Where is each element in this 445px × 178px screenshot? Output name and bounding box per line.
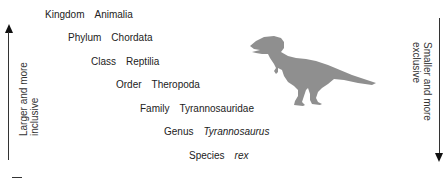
up-arrowhead-icon xyxy=(5,24,13,33)
right-axis-label: Smaller and more exclusive xyxy=(411,42,433,121)
rank-genus: GenusTyrannosaurus xyxy=(164,126,269,138)
rank-class: ClassReptilia xyxy=(91,56,159,68)
rank-order: OrderTheropoda xyxy=(116,79,200,91)
left-axis-line xyxy=(8,32,9,160)
rank-species: Speciesrex xyxy=(189,150,248,162)
bottom-left-mark xyxy=(12,177,22,178)
left-axis-label: Larger and more inclusive xyxy=(18,62,40,136)
rank-kingdom: KingdomAnimalia xyxy=(45,9,133,21)
down-arrowhead-icon xyxy=(435,153,443,162)
rank-family: FamilyTyrannosauridae xyxy=(140,103,254,115)
right-axis-line xyxy=(439,18,440,154)
rank-phylum: PhylumChordata xyxy=(68,32,153,44)
tyrannosaurus-silhouette-icon xyxy=(248,28,378,108)
